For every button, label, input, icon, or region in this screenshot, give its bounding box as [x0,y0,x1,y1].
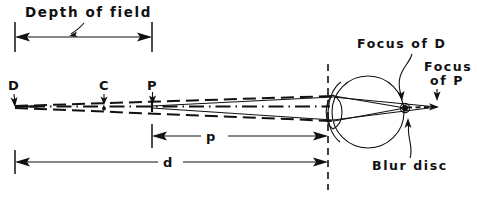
dimension-d-label: d [163,155,172,170]
focus-of-d-label: Focus of D [357,36,446,51]
converged-ray-upper-p [333,97,437,107]
blur-disc-leader-line [408,124,411,158]
depth-of-field-label: Depth of field [25,4,152,20]
dimension-p-label: p [206,129,215,144]
focus-of-p-label-line2: of P [430,73,464,88]
depth-of-field-leader-line [71,23,84,34]
focus-of-d-leader [398,54,413,101]
point-c-label: C [99,78,109,93]
diagram-canvas: Depth of field D C P [0,0,477,207]
blur-disc-arrowhead [405,118,412,128]
point-p-label: P [147,78,157,93]
point-d-label: D [8,78,19,93]
object-point-c [101,94,108,110]
point-c-dot [102,107,106,111]
focus-of-d-leader-line [399,54,412,95]
depth-of-field-dimension [15,22,152,52]
focus-of-p-label-line1: Focus [424,59,472,74]
blur-disc-leader [405,118,412,158]
focus-of-p-leader [434,89,441,101]
optics-diagram: Depth of field D C P [0,0,477,207]
dimension-p [152,124,328,148]
converging-rays-inside-eye [333,96,437,121]
converged-ray-lower-p [333,107,437,120]
focus-of-d-arrowhead [398,91,405,101]
blur-disc-label: Blur disc [372,158,448,173]
